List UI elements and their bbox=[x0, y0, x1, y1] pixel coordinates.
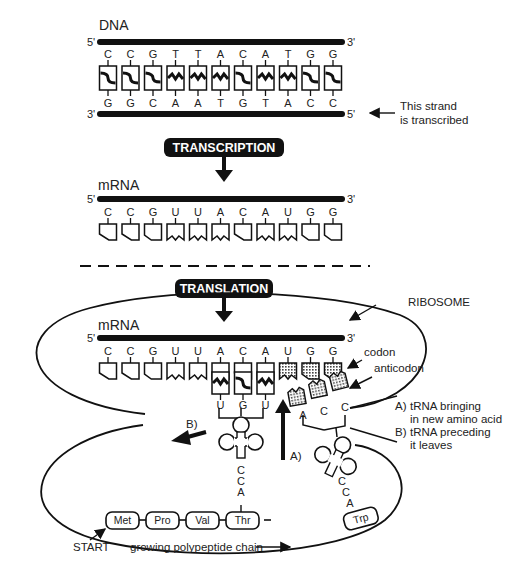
dna-top-base: C bbox=[239, 48, 247, 60]
trna-incoming: ACC CCA Trp bbox=[287, 370, 397, 531]
transcription-step: TRANSCRIPTION bbox=[164, 138, 284, 182]
dna-top-base: A bbox=[262, 48, 270, 60]
arrow-b-icon bbox=[171, 430, 191, 445]
mrna-base: C bbox=[239, 206, 247, 218]
codon-block bbox=[235, 224, 252, 240]
dna-top-base: T bbox=[285, 48, 292, 60]
amino-acid-label: Val bbox=[195, 514, 209, 526]
amino-acid-label: Met bbox=[114, 514, 132, 526]
dna-top-base: C bbox=[127, 48, 135, 60]
codon-block-shaded bbox=[302, 363, 319, 379]
codon-block bbox=[167, 363, 184, 379]
arrow-b-label: B) bbox=[186, 418, 198, 430]
codon-block bbox=[212, 224, 229, 240]
codon-block bbox=[302, 224, 319, 240]
mrna-base: U bbox=[194, 206, 202, 218]
transcription-label: TRANSCRIPTION bbox=[173, 141, 276, 155]
mrna-base: A bbox=[217, 206, 225, 218]
dna-bottom-base: C bbox=[307, 97, 315, 109]
dna-bottom-base: T bbox=[217, 97, 224, 109]
codon-block-shaded bbox=[280, 363, 297, 379]
anticodon-base: G bbox=[239, 399, 248, 411]
dna-bottom-5prime: 5' bbox=[347, 108, 355, 120]
mrna-base: C bbox=[127, 206, 135, 218]
mrna-base: U bbox=[172, 345, 180, 357]
translation-arrow-head bbox=[215, 311, 233, 322]
codon-block bbox=[190, 224, 207, 240]
mrna-base: C bbox=[127, 345, 135, 357]
legend-a-line2: in new amino acid bbox=[410, 413, 502, 425]
dna-bottom-base: T bbox=[262, 97, 269, 109]
dna-label: DNA bbox=[99, 17, 129, 33]
transcribed-note-line1: This strand bbox=[400, 100, 457, 112]
dna-base-pairs bbox=[100, 60, 342, 96]
start-label: START bbox=[73, 541, 110, 553]
anticodon-block-shaded bbox=[308, 379, 327, 399]
legend-leader-b bbox=[350, 428, 397, 442]
dna-bottom-base: C bbox=[329, 97, 337, 109]
mrna-base: G bbox=[329, 345, 338, 357]
translation-mrna-3prime: 3' bbox=[347, 332, 355, 344]
trna-tail-base: A bbox=[237, 486, 245, 498]
polypeptide-chain: MetProValThr START growing polypeptide c… bbox=[73, 512, 290, 553]
dna-top-base: T bbox=[195, 48, 202, 60]
start-pointer-arrow bbox=[90, 529, 105, 540]
translation-mrna-5prime: 5' bbox=[87, 332, 95, 344]
mrna-base: G bbox=[149, 206, 158, 218]
mrna-base: U bbox=[172, 206, 180, 218]
dna-top-base: A bbox=[217, 48, 225, 60]
codon-block bbox=[145, 224, 162, 240]
incoming-anticodon-base: C bbox=[341, 401, 349, 413]
trna-current: UGU CCA bbox=[212, 372, 274, 512]
arrow-a-icon bbox=[275, 399, 291, 413]
dna-bottom-base: A bbox=[172, 97, 180, 109]
dna-top-base: G bbox=[306, 48, 315, 60]
dna-top-bases: CCGTTACATGG bbox=[104, 48, 337, 60]
codon-block bbox=[190, 363, 207, 379]
dna-bottom-base: G bbox=[126, 97, 135, 109]
codon-block bbox=[100, 363, 117, 379]
mrna-base: A bbox=[262, 206, 270, 218]
dna-bottom-bases: GGCAATGTACC bbox=[104, 97, 337, 109]
legend-b-key: B) bbox=[395, 426, 407, 438]
amino-acid-label: Pro bbox=[154, 514, 171, 526]
chain-label: growing polypeptide chain bbox=[130, 541, 263, 553]
codon-block bbox=[100, 224, 117, 240]
mrna-base: C bbox=[104, 206, 112, 218]
anticodon-base: U bbox=[217, 399, 225, 411]
codon-annotations: codon anticodon bbox=[348, 346, 424, 388]
mrna-base: C bbox=[104, 345, 112, 357]
transcribed-note-line2: is transcribed bbox=[400, 114, 468, 126]
protein-synthesis-diagram: DNA 5' 3' CCGTTACATGG GGCAATGTACC 3' 5' … bbox=[0, 0, 519, 579]
trna-current-tail: CCA bbox=[237, 464, 245, 498]
trna-incoming-tail: CCA bbox=[338, 475, 354, 509]
dna-bottom-base: G bbox=[239, 97, 248, 109]
mrna-section: mRNA 5' 3' CCGUUACAUGG bbox=[87, 177, 355, 240]
mrna-base: G bbox=[306, 345, 315, 357]
dna-top-base: C bbox=[104, 48, 112, 60]
ribosome-label: RIBOSOME bbox=[408, 296, 470, 308]
mrna-base: U bbox=[194, 345, 202, 357]
mrna-base: G bbox=[149, 345, 158, 357]
codon-block bbox=[280, 224, 297, 240]
anticodon-label: anticodon bbox=[374, 362, 424, 374]
codon-block bbox=[257, 224, 274, 240]
legend-b-line1: tRNA preceding bbox=[410, 426, 491, 438]
dna-top-base: T bbox=[172, 48, 179, 60]
codon-block bbox=[122, 363, 139, 379]
dna-bottom-base: G bbox=[104, 97, 113, 109]
trna-current-anticodon: UGU bbox=[212, 372, 274, 411]
mrna-3prime: 3' bbox=[347, 193, 355, 205]
codon-label: codon bbox=[364, 346, 395, 358]
incoming-tail-base: A bbox=[346, 497, 354, 509]
dna-top-base: G bbox=[149, 48, 158, 60]
arrow-a-label: A) bbox=[290, 450, 302, 462]
mrna-label: mRNA bbox=[98, 177, 140, 193]
dna-bottom-base: C bbox=[149, 97, 157, 109]
legend-a-line1: tRNA bringing bbox=[410, 400, 481, 412]
dna-bottom-base: A bbox=[194, 97, 202, 109]
codon-block bbox=[325, 224, 342, 240]
incoming-anticodon-base: C bbox=[320, 405, 328, 417]
transcription-arrow-head bbox=[215, 170, 233, 182]
translation-step: TRANSLATION bbox=[175, 279, 273, 322]
